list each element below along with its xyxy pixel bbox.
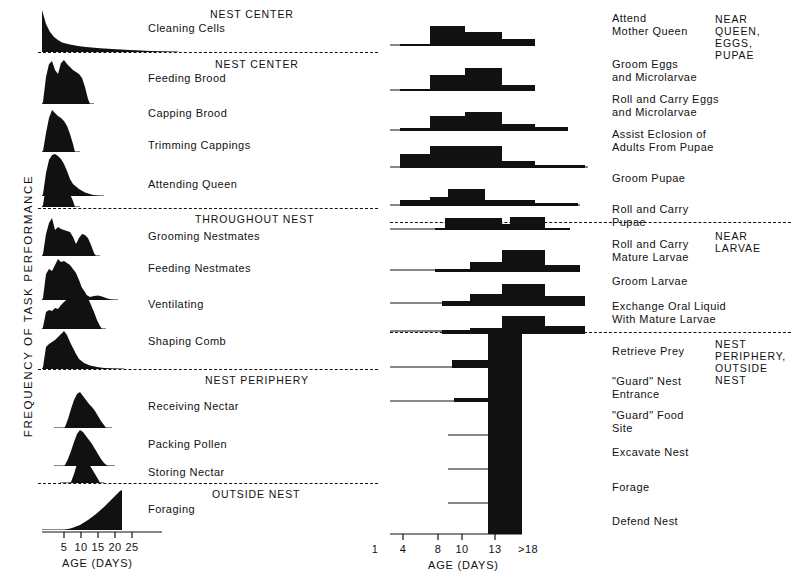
group-label-outside-nest: OUTSIDE NEST [212,488,300,500]
right-x-axis [390,532,600,542]
task-label-excavate-nest: Excavate Nest [612,446,689,459]
plot-assist-eclosion [390,134,600,168]
task-label-forage: Forage [612,481,650,494]
left-tick-25: 25 [125,541,138,553]
task-label-feeding-nestmates: Feeding Nestmates [148,262,251,275]
plot-excavate-nest [390,436,600,470]
task-label-groom-eggs: Groom Eggs and Microlarvae [612,58,697,84]
left-tick-10: 10 [74,541,87,553]
right-tick-4: 4 [400,543,407,555]
task-label-cleaning-cells: Cleaning Cells [148,22,225,35]
right-x-axis-title: AGE (DAYS) [428,559,499,571]
task-label-exchange-oral-liquid: Exchange Oral Liquid With Mature Larvae [612,300,726,326]
left-tick-5: 5 [61,541,68,553]
right-tick-18: >18 [518,543,538,555]
group-label-throughout-nest: THROUGHOUT NEST [195,213,314,225]
task-label-ventilating: Ventilating [148,298,204,311]
task-label-guard-food-site: "Guard" Food Site [612,409,684,435]
plot-roll-carry-eggs [390,97,600,131]
figure-root: FREQUENCY OF TASK PERFORMANCE NEST CENTE… [0,0,791,579]
task-label-roll-carry-mature-larvae: Roll and Carry Mature Larvae [612,238,689,264]
task-label-feeding-brood: Feeding Brood [148,72,226,85]
task-label-defend-nest: Defend Nest [612,515,678,528]
group-label-nest-periphery-outside: NEST PERIPHERY, OUTSIDE NEST [715,338,791,386]
task-label-shaping-comb: Shaping Comb [148,335,226,348]
plot-roll-carry-pupae [390,202,600,230]
right-tick-1: 1 [372,543,379,555]
plot-roll-carry-mature-larvae [390,238,600,272]
divider-3 [38,369,378,370]
divider-4 [38,483,378,484]
group-label-near-larvae: NEAR LARVAE [715,230,791,254]
task-label-retrieve-prey: Retrieve Prey [612,345,684,358]
task-label-packing-pollen: Packing Pollen [148,438,227,451]
plot-exchange-oral-liquid [390,304,600,334]
right-tick-10: 10 [455,543,468,555]
task-label-trimming-cappings: Trimming Cappings [148,139,251,152]
task-label-attending-queen: Attending Queen [148,178,237,191]
plot-attend-mother-queen [390,12,600,46]
task-label-roll-carry-eggs: Roll and Carry Eggs and Microlarvae [612,93,719,119]
task-label-capping-brood: Capping Brood [148,107,227,120]
left-x-axis [38,530,168,540]
left-x-tick-labels: 5 10 15 20 25 [38,541,168,555]
plot-groom-pupae [390,172,600,206]
left-tick-20: 20 [108,541,121,553]
divider-1 [38,52,378,53]
task-label-roll-carry-pupae: Roll and Carry Pupae [612,203,689,229]
right-tick-8: 8 [435,543,442,555]
right-x-tick-labels: 1 4 8 10 13 >18 [390,543,600,557]
group-label-near-queen: NEAR QUEEN, EGGS, PUPAE [715,13,791,61]
task-label-storing-nectar: Storing Nectar [148,466,225,479]
task-label-grooming-nestmates: Grooming Nestmates [148,230,260,243]
right-tick-13: 13 [488,543,501,555]
left-tick-15: 15 [91,541,104,553]
task-label-receiving-nectar: Receiving Nectar [148,400,239,413]
right-panel: NEAR QUEEN, EGGS, PUPAE NEAR LARVAE NEST… [390,0,791,579]
plot-groom-eggs [390,57,600,91]
task-label-foraging: Foraging [148,503,195,516]
plot-guard-food-site [390,402,600,436]
plot-forage [390,470,600,504]
task-label-groom-pupae: Groom Pupae [612,172,685,185]
group-label-nest-periphery: NEST PERIPHERY [205,374,309,386]
task-label-assist-eclosion: Assist Eclosion of Adults From Pupae [612,128,714,154]
left-x-axis-title: AGE (DAYS) [62,557,133,569]
task-label-groom-larvae: Groom Larvae [612,275,688,288]
group-label-nest-center-2: NEST CENTER [215,58,299,70]
group-label-nest-center-1: NEST CENTER [210,8,294,20]
divider-2 [38,208,378,209]
plot-groom-larvae [390,272,600,306]
task-label-guard-nest-entrance: "Guard" Nest Entrance [612,375,681,401]
left-panel: NEST CENTER NEST CENTER THROUGHOUT NEST … [0,0,400,579]
task-label-attend-mother-queen: Attend Mother Queen [612,12,688,38]
plot-retrieve-prey [390,334,600,368]
plot-guard-nest-entrance [390,368,600,402]
plot-defend-nest [390,504,600,534]
